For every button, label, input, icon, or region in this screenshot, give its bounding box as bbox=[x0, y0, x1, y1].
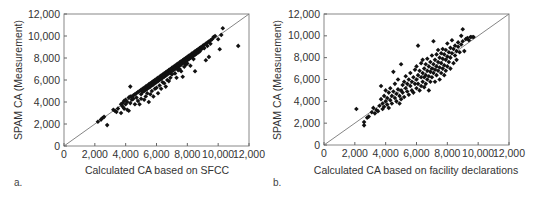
x-tick-label: 12,000 bbox=[233, 148, 265, 160]
y-tick-label: 10,000 bbox=[28, 30, 60, 42]
x-tick-label: 10,000 bbox=[202, 148, 234, 160]
data-point bbox=[451, 61, 456, 66]
y-axis-label-a: SPAM CA (Measurement) bbox=[12, 20, 24, 140]
data-point bbox=[217, 47, 222, 52]
data-point bbox=[454, 58, 459, 63]
y-tick-label: 8,000 bbox=[294, 51, 320, 63]
data-point bbox=[193, 69, 198, 74]
x-tick-label: 0 bbox=[321, 147, 327, 159]
data-point bbox=[156, 91, 161, 96]
data-point bbox=[403, 74, 408, 79]
data-point bbox=[379, 84, 384, 89]
data-point bbox=[388, 86, 393, 91]
data-point bbox=[433, 79, 438, 84]
y-tick-label: 4,000 bbox=[34, 96, 60, 108]
panel-label-b: b. bbox=[273, 177, 281, 188]
panel-a: SPAM CA (Measurement) Calculated CA base… bbox=[12, 8, 265, 189]
x-axis-label-a: Calculated CA based on SFCC bbox=[85, 164, 230, 176]
y-tick-label: 6,000 bbox=[294, 73, 320, 85]
data-point bbox=[379, 97, 384, 102]
data-point bbox=[459, 34, 464, 39]
y-tick-label: 0 bbox=[54, 140, 60, 152]
y-tick-label: 2,000 bbox=[294, 117, 320, 129]
data-point bbox=[430, 53, 435, 58]
data-point bbox=[445, 41, 450, 46]
data-point bbox=[408, 71, 413, 76]
data-point bbox=[399, 62, 404, 67]
data-point bbox=[437, 77, 442, 82]
y-tick-label: 12,000 bbox=[288, 8, 320, 20]
data-point bbox=[119, 111, 124, 116]
x-tick-label: 12,000 bbox=[493, 147, 525, 159]
data-point bbox=[146, 100, 151, 105]
y-tick-label: 4,000 bbox=[294, 95, 320, 107]
data-point bbox=[354, 107, 359, 112]
y-tick-label: 12,000 bbox=[28, 8, 60, 20]
data-point bbox=[362, 123, 367, 128]
data-point bbox=[174, 76, 179, 81]
y-tick-label: 8,000 bbox=[34, 52, 60, 64]
y-tick-label: 6,000 bbox=[34, 74, 60, 86]
x-tick-label: 2,000 bbox=[82, 148, 108, 160]
x-tick-label: 4,000 bbox=[113, 148, 139, 160]
data-point bbox=[425, 56, 430, 61]
data-point bbox=[204, 58, 209, 63]
x-tick-label: 4,000 bbox=[373, 147, 399, 159]
panel-b: SPAM CA (Measurement) Calculated CA base… bbox=[271, 8, 525, 189]
data-point bbox=[431, 39, 436, 44]
x-axis-label-b: Calculated CA based on facility declarat… bbox=[314, 164, 518, 176]
figure: SPAM CA (Measurement) Calculated CA base… bbox=[0, 0, 537, 203]
data-point bbox=[396, 77, 401, 82]
y-tick-label: 2,000 bbox=[34, 118, 60, 130]
x-tick-label: 10,000 bbox=[462, 147, 494, 159]
data-point bbox=[427, 88, 432, 93]
x-tick-label: 6,000 bbox=[403, 147, 429, 159]
data-point bbox=[219, 33, 224, 38]
x-tick-label: 2,000 bbox=[342, 147, 368, 159]
x-tick-label: 0 bbox=[61, 148, 67, 160]
data-point bbox=[436, 48, 441, 53]
data-point bbox=[128, 84, 133, 89]
data-point bbox=[416, 43, 421, 48]
data-point bbox=[434, 52, 439, 57]
x-tick-label: 8,000 bbox=[434, 147, 460, 159]
x-tick-label: 6,000 bbox=[143, 148, 169, 160]
data-point bbox=[207, 55, 212, 60]
data-point bbox=[393, 82, 398, 87]
y-tick-label: 10,000 bbox=[288, 29, 320, 41]
x-tick-label: 8,000 bbox=[174, 148, 200, 160]
y-axis-label-b: SPAM CA (Measurement) bbox=[271, 20, 283, 140]
y-tick-label: 0 bbox=[314, 139, 320, 151]
data-point bbox=[391, 70, 396, 75]
panel-label-a: a. bbox=[14, 177, 22, 188]
data-point bbox=[236, 44, 241, 49]
data-point bbox=[220, 26, 225, 31]
data-point bbox=[180, 74, 185, 79]
data-point bbox=[462, 49, 467, 54]
data-point bbox=[460, 27, 465, 32]
data-point bbox=[133, 102, 138, 107]
data-point bbox=[450, 38, 455, 43]
data-point bbox=[105, 123, 110, 128]
